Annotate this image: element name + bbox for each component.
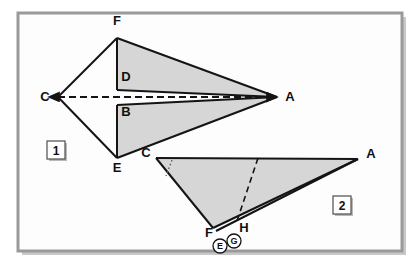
diagram-stage: F C E A D B 1 C A F H [0,0,419,268]
vertex-label-e: E [113,160,122,175]
circled-label-g: G [227,234,241,248]
circled-label-e-text: E [217,241,223,251]
vertex-label-f-2: F [205,225,213,240]
figure-badge-1: 1 [47,141,67,161]
vertex-label-a: A [285,89,295,104]
figure-badge-2: 2 [333,196,353,216]
vertex-label-h: H [239,220,248,235]
vertex-label-d: D [121,69,130,84]
figure-badge-1-label: 1 [53,144,60,158]
geometry-diagram: F C E A D B 1 C A F H [0,0,419,268]
vertex-label-c: C [40,89,50,104]
vertex-label-b: B [121,104,130,119]
vertex-label-c-2: C [141,145,151,160]
circled-label-e: E [213,239,227,253]
circled-label-g-text: G [230,236,237,246]
vertex-label-f: F [113,13,121,28]
vertex-label-a-2: A [366,146,376,161]
figure-badge-2-label: 2 [339,199,346,213]
